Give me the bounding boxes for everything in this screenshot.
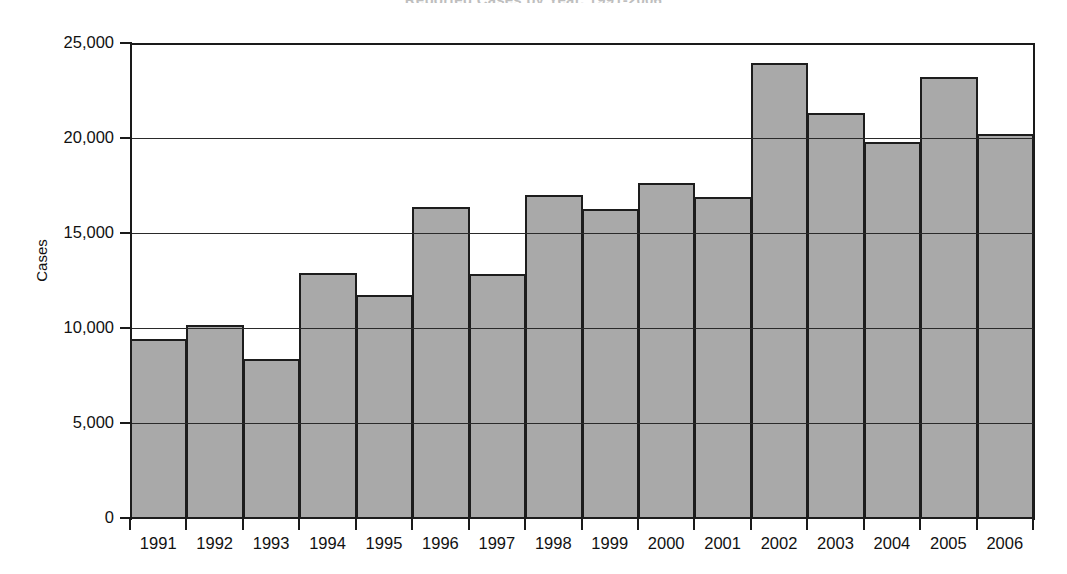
x-axis-tick <box>581 519 583 530</box>
bar-1996 <box>412 207 469 519</box>
x-axis-tick-label: 2002 <box>751 533 807 553</box>
x-axis-tick <box>468 519 470 530</box>
bar-1999 <box>582 209 639 519</box>
x-axis-tick-label: 1991 <box>130 533 186 553</box>
x-axis-tick <box>242 519 244 530</box>
y-axis-tick-label: 10,000 <box>0 319 114 335</box>
x-axis-tick <box>693 519 695 530</box>
bar-1991 <box>130 339 187 520</box>
bar-2002 <box>751 63 808 519</box>
x-axis-tick-label: 2003 <box>807 533 863 553</box>
x-axis-tick <box>355 519 357 530</box>
y-axis-tick <box>120 42 132 44</box>
gridline <box>130 138 1033 139</box>
x-axis-tick-label: 1993 <box>243 533 299 553</box>
y-axis-tick-label: 5,000 <box>0 414 114 430</box>
x-axis-tick <box>411 519 413 530</box>
y-axis-tick-labels: 05,00010,00015,00020,00025,000 <box>0 0 114 574</box>
gridline <box>130 233 1033 234</box>
x-axis-tick <box>185 519 187 530</box>
bars-layer <box>130 43 1033 519</box>
x-axis-tick-labels: 1991199219931994199519961997199819992000… <box>130 533 1033 563</box>
gridline <box>130 328 1033 329</box>
x-axis-tick-label: 1995 <box>356 533 412 553</box>
x-axis-tick-label: 2000 <box>638 533 694 553</box>
x-axis-tick-label: 1999 <box>582 533 638 553</box>
y-axis-tick-label: 20,000 <box>0 129 114 145</box>
x-axis-tick <box>637 519 639 530</box>
y-axis-tick <box>120 232 132 234</box>
x-axis-tick-label: 2004 <box>864 533 920 553</box>
x-axis-tick-label: 1994 <box>299 533 355 553</box>
bar-1994 <box>299 273 356 519</box>
bar-1997 <box>469 274 526 519</box>
x-axis-tick <box>129 519 131 530</box>
bar-2004 <box>864 142 921 519</box>
x-axis-tick-label: 2001 <box>694 533 750 553</box>
chart-title: Reported Cases by Year, 1991-2006 <box>0 0 1067 3</box>
bar-1993 <box>243 359 300 519</box>
x-axis-tick <box>524 519 526 530</box>
x-axis-tick-label: 1997 <box>469 533 525 553</box>
y-axis-tick <box>120 327 132 329</box>
x-axis-tick <box>806 519 808 530</box>
x-axis-tick <box>919 519 921 530</box>
x-axis-tick-label: 2005 <box>920 533 976 553</box>
x-axis-tick <box>863 519 865 530</box>
bar-1998 <box>525 195 582 519</box>
gridline <box>130 423 1033 424</box>
y-axis-tick-label: 0 <box>0 509 114 525</box>
y-axis-tick <box>120 137 132 139</box>
bar-2003 <box>807 113 864 519</box>
y-axis-tick <box>120 422 132 424</box>
y-axis-tick-label: 15,000 <box>0 224 114 240</box>
x-axis-tick <box>976 519 978 530</box>
bar-2001 <box>694 197 751 519</box>
x-axis-tick-label: 1998 <box>525 533 581 553</box>
bar-chart: Reported Cases by Year, 1991-2006 Cases … <box>0 0 1067 574</box>
x-axis-tick <box>298 519 300 530</box>
x-axis-tick-label: 2006 <box>977 533 1033 553</box>
y-axis-tick-label: 25,000 <box>0 34 114 50</box>
x-axis-tick <box>750 519 752 530</box>
x-axis-tick-label: 1996 <box>412 533 468 553</box>
x-axis-tick-label: 1992 <box>186 533 242 553</box>
x-axis-tick <box>1032 519 1034 530</box>
bar-2005 <box>920 77 977 519</box>
